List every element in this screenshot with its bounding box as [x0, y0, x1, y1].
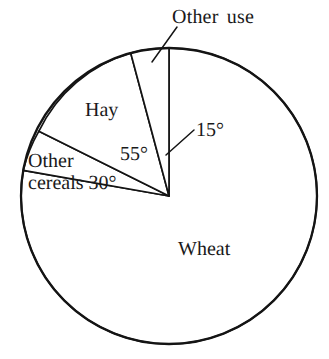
slice-label-other-cereals-line2: cereals 30° — [28, 172, 117, 194]
slice-label-wheat: Wheat — [178, 238, 230, 260]
slice-label-other-cereals-line1: Other — [28, 150, 74, 172]
angle-label-15: 15° — [196, 119, 224, 141]
slice-label-other-use: Other use — [172, 6, 254, 28]
pie-chart-figure: Other use Hay 55° 15° Other cereals 30° … — [0, 0, 329, 359]
angle-label-55: 55° — [120, 143, 148, 165]
slice-label-other-cereals: Other cereals 30° — [28, 150, 117, 195]
slice-label-hay: Hay — [85, 99, 118, 121]
